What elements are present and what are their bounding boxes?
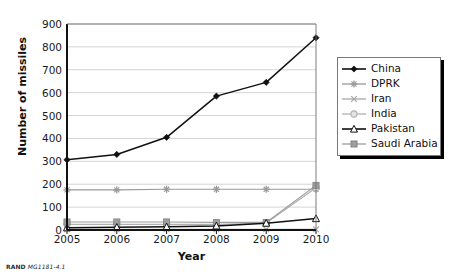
plot-svg [67, 24, 316, 230]
y-axis-tick-label: 700 [32, 65, 62, 76]
legend-item-india[interactable]: India [341, 106, 436, 121]
series-pakistan [64, 215, 320, 231]
data-point-marker [351, 140, 357, 146]
series-line [67, 38, 316, 160]
legend-item-pakistan[interactable]: Pakistan [341, 121, 436, 136]
series-line [67, 189, 316, 190]
legend-swatch-x-icon [341, 92, 367, 106]
legend-swatch-square-icon [341, 137, 367, 151]
y-axis-tick-labels: 0100200300400500600700800900 [28, 24, 62, 230]
credit-identifier: MG1181-4.1 [28, 263, 66, 270]
y-axis-tick-label: 500 [32, 110, 62, 121]
legend-label: Iran [371, 93, 392, 104]
series-india [64, 185, 319, 228]
x-axis-tick-label: 2008 [191, 234, 241, 245]
y-axis-tick-label: 900 [32, 19, 62, 30]
series-line [67, 188, 316, 225]
x-axis-tick-label: 2006 [92, 234, 142, 245]
legend-item-saudi-arabia[interactable]: Saudi Arabia [341, 136, 436, 151]
y-axis-tick-label: 300 [32, 156, 62, 167]
series-line [67, 219, 316, 228]
x-axis-title: Year [67, 250, 316, 263]
data-point-marker [114, 151, 120, 157]
y-axis-title: Number of missiles [16, 22, 29, 172]
y-axis-tick-label: 100 [32, 202, 62, 213]
y-axis-tick-label: 400 [32, 133, 62, 144]
y-axis-tick-label: 800 [32, 42, 62, 53]
x-axis-tick-label: 2007 [142, 234, 192, 245]
x-axis-tick-label: 2010 [291, 234, 341, 245]
legend-swatch-circle-icon [341, 107, 367, 121]
figure-credit: RAND MG1181-4.1 [6, 263, 66, 270]
x-axis-tick-label: 2009 [241, 234, 291, 245]
legend-label: Saudi Arabia [371, 138, 438, 149]
series-dprk [63, 186, 319, 194]
series-china [64, 35, 319, 163]
x-axis-tick-label: 2005 [42, 234, 92, 245]
chart-legend: ChinaDPRKIranIndiaPakistanSaudi Arabia [337, 57, 441, 156]
data-point-marker [351, 110, 357, 116]
legend-item-china[interactable]: China [341, 61, 436, 76]
data-point-marker [351, 65, 357, 71]
legend-label: China [371, 63, 401, 74]
legend-swatch-triangle-open-icon [341, 122, 367, 136]
legend-label: Pakistan [371, 123, 415, 134]
legend-swatch-star-icon [341, 77, 367, 91]
legend-item-iran[interactable]: Iran [341, 91, 436, 106]
series-line [67, 185, 316, 222]
missile-count-line-chart: Number of missiles 010020030040050060070… [0, 0, 449, 278]
legend-label: DPRK [371, 78, 400, 89]
y-axis-tick-label: 600 [32, 87, 62, 98]
credit-organization: RAND [6, 263, 26, 270]
legend-swatch-diamond-icon [341, 62, 367, 76]
x-axis-tick-labels: 200520062007200820092010 [67, 234, 316, 250]
plot-area [67, 24, 316, 230]
legend-item-dprk[interactable]: DPRK [341, 76, 436, 91]
y-axis-tick-label: 200 [32, 179, 62, 190]
legend-label: India [371, 108, 397, 119]
